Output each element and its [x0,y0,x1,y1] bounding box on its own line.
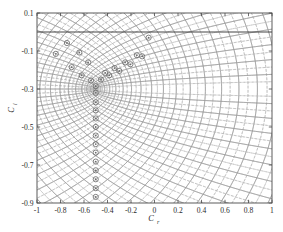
x-tick-label: 0.2 [173,206,183,215]
root-marker-center [55,53,57,55]
root-marker-center [136,54,138,56]
root-marker-center [78,52,80,54]
root-marker-center [95,143,97,145]
x-tick-label: 0.8 [244,206,254,215]
root-marker-center [114,67,116,69]
y-tick-label: -0.9 [21,199,33,208]
root-marker-center [90,80,92,82]
root-marker-center [130,63,132,65]
root-marker-center [95,169,97,171]
root-marker-center [104,72,106,74]
root-marker-center [95,161,97,163]
contour-plot-figure: -1-0.8-0.6-0.4-0.200.20.40.60.810.1-0.1-… [0,0,283,232]
root-marker-center [108,74,110,76]
root-marker-center [66,42,68,44]
root-marker-center [95,187,97,189]
root-marker-center [95,92,97,94]
svg-text:C: C [148,214,154,223]
root-marker-center [95,152,97,154]
root-marker-center [95,178,97,180]
x-tick-label: 1 [270,206,274,215]
x-tick-label: -1 [34,206,41,215]
y-tick-label: -0.7 [21,161,33,170]
root-marker-center [95,109,97,111]
root-marker-center [81,74,83,76]
root-marker-center [95,118,97,120]
root-marker-center [148,37,150,39]
root-marker-center [95,101,97,103]
y-tick-label: -0.1 [21,47,33,56]
x-tick-label: -0.2 [125,206,137,215]
x-tick-label: -0.4 [101,206,113,215]
root-marker-center [124,62,126,64]
root-marker-center [95,85,97,87]
root-marker-center [141,55,143,57]
y-tick-label: -0.5 [21,123,33,132]
svg-text:C: C [7,107,16,113]
root-marker-center [87,62,89,64]
root-marker-center [100,79,102,81]
root-marker-center [71,66,73,68]
x-tick-label: -0.6 [78,206,90,215]
root-marker-center [95,126,97,128]
root-marker-center [118,70,120,72]
plot-canvas: -1-0.8-0.6-0.4-0.200.20.40.60.810.1-0.1-… [0,0,283,232]
x-tick-label: -0.8 [54,206,66,215]
y-tick-label: -0.3 [21,85,33,94]
root-marker-center [95,135,97,137]
x-tick-label: 0.4 [197,206,207,215]
root-marker-center [95,196,97,198]
figure-background [0,0,283,232]
y-tick-label: 0.1 [24,9,34,18]
x-tick-label: 0.6 [220,206,230,215]
